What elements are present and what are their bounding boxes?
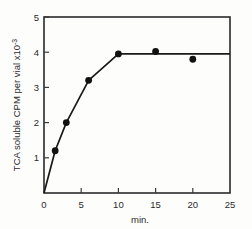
x-tick-label: 20	[188, 199, 199, 210]
y-tick-label: 4	[34, 47, 39, 58]
data-point	[152, 48, 159, 55]
y-axis-tick-labels: 12345	[34, 12, 39, 164]
y-axis-title: TCA soluble CPM per vial x10-3	[11, 39, 22, 171]
x-tick-label: 0	[41, 199, 46, 210]
data-point	[63, 119, 70, 126]
data-series-markers	[52, 48, 196, 154]
data-point	[115, 51, 122, 58]
data-series-line	[44, 54, 230, 193]
chart-figure: 12345 0510152025 TCA soluble CPM per via…	[0, 0, 252, 229]
y-tick-label: 1	[34, 152, 39, 163]
axes-frame	[44, 17, 230, 193]
y-tick-label: 5	[34, 12, 39, 23]
x-tick-label: 5	[79, 199, 84, 210]
data-point	[189, 56, 196, 63]
data-point	[52, 147, 59, 154]
x-tick-label: 25	[225, 199, 236, 210]
y-tick-label: 2	[34, 117, 39, 128]
plot-canvas: 12345 0510152025 TCA soluble CPM per via…	[0, 0, 252, 229]
x-tick-label: 10	[113, 199, 124, 210]
x-tick-label: 15	[150, 199, 161, 210]
y-tick-label: 3	[34, 82, 39, 93]
x-axis-title: min.	[131, 214, 149, 225]
data-point	[85, 77, 92, 84]
x-axis-tick-labels: 0510152025	[41, 199, 235, 210]
